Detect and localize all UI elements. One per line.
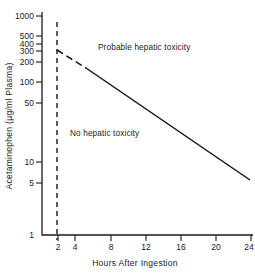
toxicity-line-solid-segment [86, 68, 250, 180]
probable-hepatic-toxicity-label: Probable hepatic toxicity [98, 43, 191, 52]
x-tick-label-20: 20 [211, 242, 221, 252]
y-tick-label-200: 200 [20, 57, 34, 67]
x-tick-label-2: 2 [56, 242, 61, 252]
y-tick-label-100: 100 [20, 77, 34, 87]
y-tick-label-1: 1 [29, 230, 34, 240]
x-axis-ticks [58, 235, 251, 241]
y-axis-title: Acetaminophen (µg/ml Plasma) [4, 62, 14, 189]
y-tick-label-50: 50 [25, 98, 35, 108]
y-tick-label-10: 10 [25, 157, 35, 167]
y-tick-label-5: 5 [29, 178, 34, 188]
x-tick-label-4: 4 [73, 242, 78, 252]
x-tick-label-12: 12 [141, 242, 151, 252]
toxicity-line-dashed-segment [57, 50, 86, 68]
y-axis-ticks [36, 16, 42, 183]
no-hepatic-toxicity-label: No hepatic toxicity [70, 129, 140, 138]
y-tick-label-300: 300 [20, 46, 34, 56]
y-axis-tick-labels: 1000 500 400 300 200 100 50 10 5 1 [15, 11, 34, 240]
y-tick-label-1000: 1000 [15, 11, 34, 21]
x-tick-label-24: 24 [244, 242, 254, 252]
x-tick-label-8: 8 [109, 242, 114, 252]
toxicity-threshold-line [57, 50, 250, 180]
x-axis-title: Hours After Ingestion [92, 258, 178, 268]
chart-canvas: 1000 500 400 300 200 100 50 10 5 1 2 4 8 [0, 0, 255, 273]
x-axis-tick-labels: 2 4 8 12 16 20 24 [56, 242, 254, 252]
acetaminophen-nomogram-chart: 1000 500 400 300 200 100 50 10 5 1 2 4 8 [0, 0, 255, 273]
x-tick-label-16: 16 [176, 242, 186, 252]
